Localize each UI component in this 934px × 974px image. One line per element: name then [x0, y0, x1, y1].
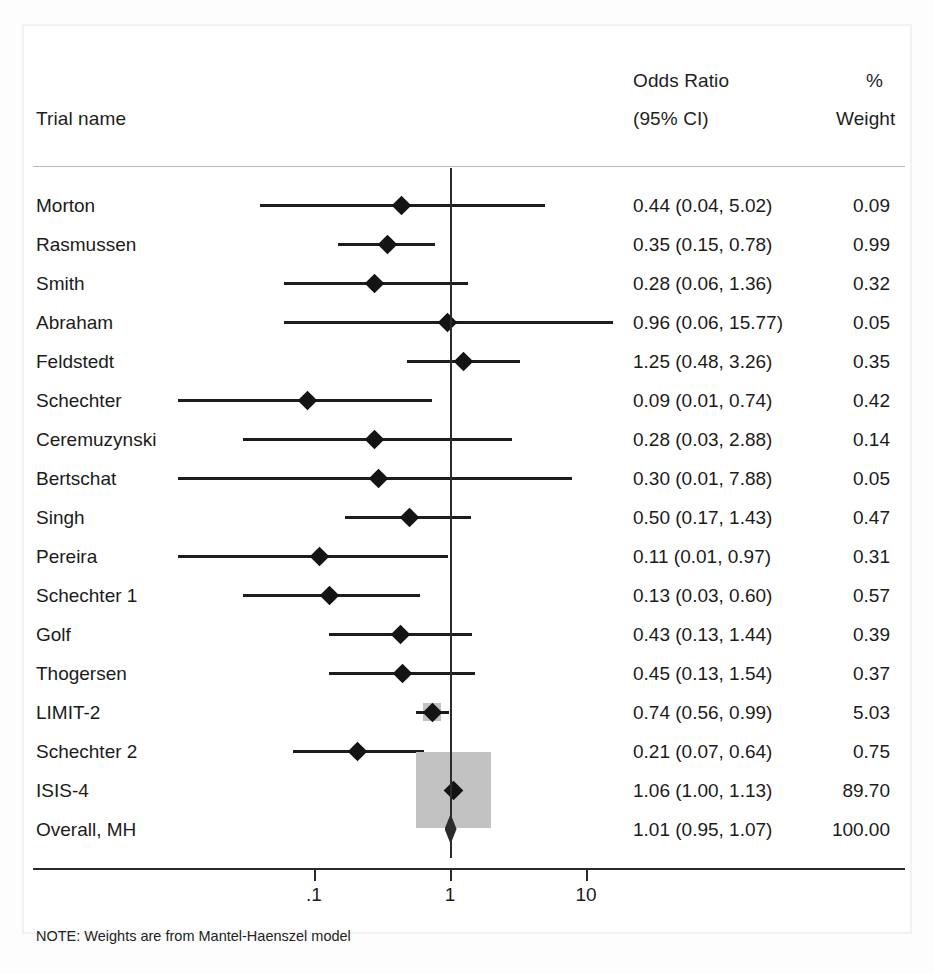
weight-value: 0.99 — [853, 225, 890, 264]
trial-name-label: Schechter 1 — [36, 576, 137, 615]
weight-value: 0.47 — [853, 498, 890, 537]
odds-ratio-value: 0.09 (0.01, 0.74) — [633, 381, 772, 420]
weight-value: 0.32 — [853, 264, 890, 303]
trial-name-label: LIMIT-2 — [36, 693, 100, 732]
axis-line — [33, 868, 905, 870]
trial-name-label: Ceremuzynski — [36, 420, 156, 459]
trial-name-label: Singh — [36, 498, 85, 537]
odds-ratio-value: 1.06 (1.00, 1.13) — [633, 771, 772, 810]
weight-value: 0.05 — [853, 459, 890, 498]
axis-tick — [586, 870, 588, 881]
weight-value: 0.35 — [853, 342, 890, 381]
column-header-weight: Weight — [836, 108, 895, 130]
trial-name-label: Morton — [36, 186, 95, 225]
table-row: Overall, MH1.01 (0.95, 1.07)100.00 — [0, 810, 934, 849]
table-row: ISIS-41.06 (1.00, 1.13)89.70 — [0, 771, 934, 810]
axis-tick-label: 10 — [575, 884, 596, 906]
table-row: Abraham0.96 (0.06, 15.77)0.05 — [0, 303, 934, 342]
odds-ratio-value: 0.30 (0.01, 7.88) — [633, 459, 772, 498]
odds-ratio-value: 0.74 (0.56, 0.99) — [633, 693, 772, 732]
table-row: Morton0.44 (0.04, 5.02)0.09 — [0, 186, 934, 225]
table-row: Pereira0.11 (0.01, 0.97)0.31 — [0, 537, 934, 576]
figure-canvas: Trial name Odds Ratio (95% CI) % Weight … — [0, 0, 934, 974]
weight-value: 0.31 — [853, 537, 890, 576]
table-row: Schechter 10.13 (0.03, 0.60)0.57 — [0, 576, 934, 615]
odds-ratio-value: 0.13 (0.03, 0.60) — [633, 576, 772, 615]
weight-value: 89.70 — [842, 771, 890, 810]
point-estimate-marker — [310, 547, 330, 567]
axis-tick-label: .1 — [306, 884, 322, 906]
axis-tick — [314, 870, 316, 881]
odds-ratio-value: 0.28 (0.06, 1.36) — [633, 264, 772, 303]
weight-value: 0.42 — [853, 381, 890, 420]
weight-value: 0.09 — [853, 186, 890, 225]
point-estimate-marker — [369, 469, 389, 489]
trial-name-label: Feldstedt — [36, 342, 114, 381]
point-estimate-marker — [390, 625, 410, 645]
odds-ratio-value: 0.44 (0.04, 5.02) — [633, 186, 772, 225]
trial-name-label: Pereira — [36, 537, 97, 576]
odds-ratio-value: 0.35 (0.15, 0.78) — [633, 225, 772, 264]
odds-ratio-value: 0.11 (0.01, 0.97) — [633, 537, 771, 576]
odds-ratio-value: 0.43 (0.13, 1.44) — [633, 615, 772, 654]
table-row: Smith0.28 (0.06, 1.36)0.32 — [0, 264, 934, 303]
point-estimate-marker — [453, 352, 473, 372]
weight-value: 100.00 — [832, 810, 890, 849]
weight-value: 0.14 — [853, 420, 890, 459]
table-row: Thogersen0.45 (0.13, 1.54)0.37 — [0, 654, 934, 693]
forest-plot: Trial name Odds Ratio (95% CI) % Weight … — [0, 0, 934, 974]
weight-value: 0.75 — [853, 732, 890, 771]
column-header-percent: % — [866, 70, 883, 92]
trial-name-label: Abraham — [36, 303, 113, 342]
trial-name-label: Rasmussen — [36, 225, 136, 264]
weight-value: 0.37 — [853, 654, 890, 693]
axis-tick-label: 1 — [445, 884, 456, 906]
odds-ratio-value: 0.45 (0.13, 1.54) — [633, 654, 772, 693]
cropped-caption — [0, 962, 934, 974]
weight-value: 0.57 — [853, 576, 890, 615]
table-row: Ceremuzynski0.28 (0.03, 2.88)0.14 — [0, 420, 934, 459]
table-row: LIMIT-20.74 (0.56, 0.99)5.03 — [0, 693, 934, 732]
odds-ratio-value: 1.25 (0.48, 3.26) — [633, 342, 772, 381]
point-estimate-marker — [392, 196, 412, 216]
null-reference-line — [450, 168, 452, 858]
header-divider — [33, 166, 905, 167]
point-estimate-marker — [320, 586, 340, 606]
point-estimate-marker — [298, 391, 318, 411]
point-estimate-marker — [393, 664, 413, 684]
column-header-trial-name: Trial name — [36, 108, 126, 130]
point-estimate-marker — [378, 235, 398, 255]
weight-value: 5.03 — [853, 693, 890, 732]
trial-name-label: Overall, MH — [36, 810, 136, 849]
trial-name-label: ISIS-4 — [36, 771, 89, 810]
weight-value: 0.05 — [853, 303, 890, 342]
point-estimate-marker — [365, 430, 385, 450]
table-row: Feldstedt1.25 (0.48, 3.26)0.35 — [0, 342, 934, 381]
odds-ratio-value: 0.96 (0.06, 15.77) — [633, 303, 783, 342]
trial-name-label: Smith — [36, 264, 85, 303]
table-row: Schechter0.09 (0.01, 0.74)0.42 — [0, 381, 934, 420]
table-row: Bertschat0.30 (0.01, 7.88)0.05 — [0, 459, 934, 498]
point-estimate-marker — [438, 313, 458, 333]
odds-ratio-value: 0.21 (0.07, 0.64) — [633, 732, 772, 771]
point-estimate-marker — [348, 742, 368, 762]
footnote: NOTE: Weights are from Mantel-Haenszel m… — [36, 928, 351, 944]
column-header-confidence-interval: (95% CI) — [633, 108, 709, 130]
trial-name-label: Golf — [36, 615, 71, 654]
odds-ratio-value: 1.01 (0.95, 1.07) — [633, 810, 772, 849]
table-row: Golf0.43 (0.13, 1.44)0.39 — [0, 615, 934, 654]
table-row: Singh0.50 (0.17, 1.43)0.47 — [0, 498, 934, 537]
table-row: Rasmussen0.35 (0.15, 0.78)0.99 — [0, 225, 934, 264]
axis-tick — [450, 870, 452, 881]
trial-name-label: Thogersen — [36, 654, 127, 693]
weight-value: 0.39 — [853, 615, 890, 654]
trial-name-label: Bertschat — [36, 459, 116, 498]
column-header-odds-ratio: Odds Ratio — [633, 70, 729, 92]
odds-ratio-value: 0.50 (0.17, 1.43) — [633, 498, 772, 537]
point-estimate-marker — [399, 508, 419, 528]
point-estimate-marker — [365, 274, 385, 294]
odds-ratio-value: 0.28 (0.03, 2.88) — [633, 420, 772, 459]
trial-name-label: Schechter — [36, 381, 122, 420]
trial-name-label: Schechter 2 — [36, 732, 137, 771]
